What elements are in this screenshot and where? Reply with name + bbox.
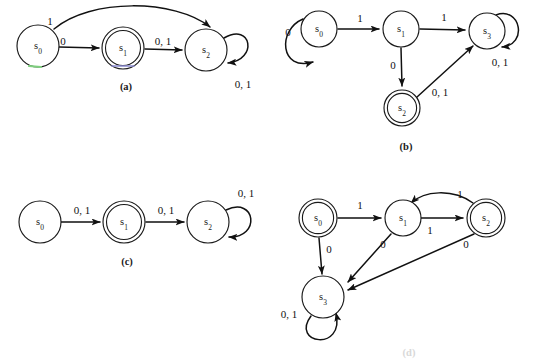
edge-d-s0-s1: 1	[338, 199, 381, 218]
state-d-s0[interactable]: s0	[299, 199, 337, 237]
state-c-s2[interactable]: s2	[187, 201, 229, 243]
diagram-b: 0 1 1 0 0, 1	[285, 11, 518, 154]
caption-a: (a)	[120, 81, 133, 93]
caption-d: (d)	[403, 347, 416, 359]
state-a-s1[interactable]: s1	[102, 27, 144, 69]
edge-label-c-s0-s1: 0, 1	[74, 204, 91, 216]
state-b-s2[interactable]: s2	[384, 90, 420, 126]
edge-a-s2-self: 0, 1	[224, 34, 251, 89]
state-b-s0[interactable]: s0	[301, 11, 337, 47]
edge-d-s0-s3: 0	[319, 238, 332, 274]
edge-c-s0-s1: 0, 1	[61, 204, 100, 222]
edge-b-s1-s2: 0	[390, 48, 402, 86]
edge-label-d-s3-self: 0, 1	[281, 308, 298, 320]
automata-diagram-svg: 1 0 0, 1 0, 1 s0	[0, 0, 543, 360]
edge-label-b-s1-s2: 0	[390, 59, 396, 71]
state-d-s1[interactable]: s1	[385, 200, 421, 236]
diagram-c: 0, 1 0, 1 0, 1 s0 s1 s2	[19, 187, 254, 269]
state-d-s3[interactable]: s3	[302, 276, 344, 318]
edge-a-s0-s1: 0	[59, 35, 99, 48]
edge-label-a-s0-s2: 1	[47, 15, 53, 27]
edge-b-s1-s3: 1	[420, 11, 465, 30]
state-a-s2[interactable]: s2	[185, 29, 227, 71]
edge-d-s2-s1: 1	[411, 188, 473, 203]
diagram-d: 1 0 1 1 0	[281, 188, 505, 360]
edge-label-a-s1-s2: 0, 1	[155, 35, 172, 47]
edge-label-c-s1-s2: 0, 1	[158, 204, 175, 216]
edge-a-s1-s2: 0, 1	[145, 35, 182, 50]
edge-label-d-s0-s1: 1	[357, 199, 363, 211]
edge-label-d-s2-s1: 1	[457, 188, 463, 200]
state-c-s1[interactable]: s1	[103, 201, 145, 243]
edge-label-b-s0-s1: 1	[357, 12, 363, 24]
edge-label-b-s2-s3: 0, 1	[432, 86, 449, 98]
edge-c-s1-s2: 0, 1	[146, 204, 184, 222]
edge-d-s1-s3: 0	[348, 234, 391, 282]
edge-label-b-s1-s3: 1	[441, 11, 447, 23]
edge-label-b-s3-self: 0, 1	[492, 56, 509, 68]
edge-label-a-s0-s1: 0	[60, 35, 66, 47]
state-a-s0[interactable]: s0	[17, 25, 59, 67]
edge-label-d-s1-s2: 1	[427, 224, 433, 236]
caption-c: (c)	[121, 256, 133, 268]
caption-b: (b)	[400, 141, 413, 153]
edge-label-d-s2-s3: 0	[463, 238, 469, 250]
edge-label-d-s1-s3: 0	[380, 238, 386, 250]
diagram-a: 1 0 0, 1 0, 1 s0	[17, 6, 251, 94]
edge-b-s2-s3: 0, 1	[417, 46, 473, 98]
state-d-s2[interactable]: s2	[467, 199, 505, 237]
edge-label-a-s2-self: 0, 1	[235, 78, 252, 90]
edge-c-s2-self: 0, 1	[226, 187, 254, 237]
edge-a-s0-s2: 1	[47, 6, 210, 29]
edge-label-c-s2-self: 0, 1	[238, 187, 255, 199]
edge-label-b-s0-self: 0	[285, 26, 291, 38]
edge-d-s1-s2: 1	[421, 218, 463, 236]
state-b-s1[interactable]: s1	[383, 11, 419, 47]
edge-b-s0-s1: 1	[338, 12, 379, 29]
edge-label-d-s0-s3: 0	[326, 243, 332, 255]
figure-canvas: 1 0 0, 1 0, 1 s0	[0, 0, 543, 360]
state-c-s0[interactable]: s0	[19, 201, 61, 243]
state-b-s3[interactable]: s3	[469, 13, 505, 49]
